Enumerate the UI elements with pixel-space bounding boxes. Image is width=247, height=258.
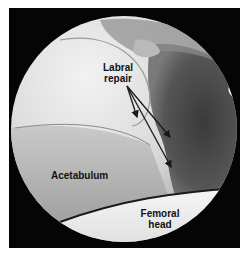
acetabulum-label: Acetabulum	[51, 170, 108, 181]
arthroscopic-view	[0, 0, 247, 258]
femoral-head-line2: head	[140, 219, 180, 230]
labral-repair-line2: repair	[96, 73, 140, 84]
femoral-head-label: Femoral head	[140, 208, 180, 230]
labral-repair-line1: Labral	[96, 62, 140, 73]
femoral-head-line1: Femoral	[140, 208, 180, 219]
labral-repair-label: Labral repair	[96, 62, 140, 84]
